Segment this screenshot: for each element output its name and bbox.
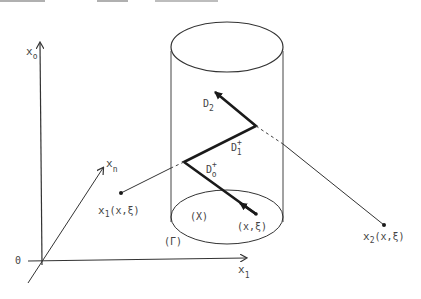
point-x2-label: x2(x,ξ) — [363, 230, 405, 245]
point-x1-label: x1(x,ξ) — [98, 204, 140, 219]
gamma-label: (Γ) — [164, 236, 182, 247]
d0-label: D+o — [206, 160, 217, 179]
point-x2: x2(x,ξ) — [363, 223, 405, 245]
d1-label: D+1 — [231, 138, 242, 157]
top-residue — [0, 0, 218, 2]
x1-axis — [28, 258, 246, 261]
start-point — [254, 212, 258, 216]
cylinder-top — [171, 22, 283, 72]
cylinder-diagram: xo xn x1 0 (Γ) (X) (x,ξ) D2 D+1 D+o x1(x… — [0, 0, 421, 299]
x0-axis — [40, 43, 42, 265]
xn-axis-label: xn — [106, 157, 118, 174]
x0-axis-label: xo — [26, 45, 38, 61]
x1-axis-label: x1 — [238, 263, 250, 280]
point-x1: x1(x,ξ) — [98, 191, 140, 219]
x-domain-label: (X) — [190, 211, 208, 222]
cylinder-bottom — [171, 190, 283, 244]
xn-axis — [28, 168, 103, 283]
start-point-label: (x,ξ) — [237, 221, 267, 232]
origin-label: 0 — [15, 255, 21, 266]
d2-label: D2 — [203, 98, 214, 113]
cylinder: (Γ) (X) — [164, 22, 283, 247]
